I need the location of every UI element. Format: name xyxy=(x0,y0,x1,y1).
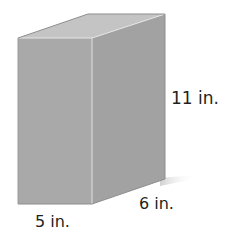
width-label: 5 in. xyxy=(35,214,70,230)
height-label: 11 in. xyxy=(171,90,219,107)
front-face xyxy=(18,38,92,204)
depth-label: 6 in. xyxy=(139,196,174,212)
side-face xyxy=(92,14,165,204)
prism-drawing xyxy=(0,0,233,235)
rectangular-prism-figure: 11 in. 6 in. 5 in. xyxy=(0,0,233,235)
